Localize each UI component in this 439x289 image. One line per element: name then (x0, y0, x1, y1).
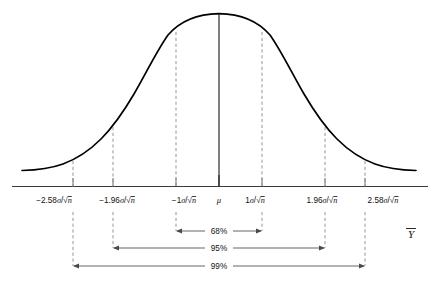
tick-label-pos-2-58: 2.58σ/√n (368, 196, 399, 205)
svg-text:Y: Y (408, 228, 416, 240)
arrow-left-99 (73, 263, 79, 268)
arrow-right-99 (359, 263, 365, 268)
interval-95-bracket: 95% (113, 244, 325, 253)
interval-95-label: 95% (211, 244, 227, 253)
tick-label-neg-2-58: −2.58σ/√n (36, 196, 72, 205)
tick-label-mu: μ (216, 195, 222, 205)
tick-label-neg-1-96: −1.96σ/√n (99, 196, 135, 205)
interval-68-label: 68% (211, 227, 227, 236)
interval-99-bracket: 99% (73, 262, 365, 271)
normal-distribution-figure: −2.58σ/√n −1.96σ/√n −1σ/√n μ 1σ/√n 1.96σ… (0, 0, 439, 289)
arrow-left-68 (176, 228, 182, 233)
interval-99-label: 99% (211, 262, 227, 271)
arrow-right-95 (319, 245, 325, 250)
y-bar-axis-label: Y (406, 228, 416, 240)
tick-label-pos-1-96: 1.96σ/√n (307, 196, 338, 205)
interval-68-bracket: 68% (176, 227, 262, 236)
arrow-right-68 (256, 228, 262, 233)
tick-label-neg-1: −1σ/√n (172, 196, 196, 205)
tick-label-pos-1: 1σ/√n (245, 196, 264, 205)
chart-svg: −2.58σ/√n −1.96σ/√n −1σ/√n μ 1σ/√n 1.96σ… (0, 0, 439, 289)
arrow-left-95 (113, 245, 119, 250)
